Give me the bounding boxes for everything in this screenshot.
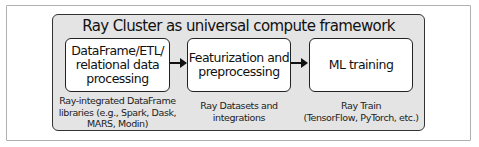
stage-1-line-2: relational data (71, 58, 164, 72)
stage-1-caption-line-2: libraries (e.g., Spark, Dask, (55, 107, 180, 119)
diagram-title: Ray Cluster as universal compute framewo… (52, 17, 425, 35)
stage-1-caption-line-1: Ray-integrated DataFrame (55, 95, 180, 107)
stage-2-caption: Ray Datasets and integrations (184, 100, 294, 123)
stage-ml-training-box: ML training (309, 38, 413, 92)
stage-1-line-3: processing (71, 72, 164, 86)
stage-2-line-2: preprocessing (189, 65, 289, 79)
stage-3-line-1: ML training (329, 58, 394, 72)
stage-2-line-1: Featurization and (189, 51, 289, 65)
stage-1-line-1: DataFrame/ETL/ (71, 44, 164, 58)
stage-dataframe-etl-box: DataFrame/ETL/ relational data processin… (65, 38, 170, 92)
arrow-stage-1-to-2 (170, 62, 185, 64)
arrow-stage-2-to-3 (291, 62, 306, 64)
stage-1-caption-line-3: MARS, Modin) (55, 118, 180, 130)
stage-3-caption-line-2: (TensorFlow, PyTorch, etc.) (296, 112, 426, 124)
stage-3-caption: Ray Train (TensorFlow, PyTorch, etc.) (296, 100, 426, 123)
stage-3-caption-line-1: Ray Train (296, 100, 426, 112)
stage-2-caption-line-1: Ray Datasets and (184, 100, 294, 112)
stage-featurization-box: Featurization and preprocessing (187, 38, 291, 92)
stage-1-caption: Ray-integrated DataFrame libraries (e.g.… (55, 95, 180, 130)
stage-2-caption-line-2: integrations (184, 112, 294, 124)
